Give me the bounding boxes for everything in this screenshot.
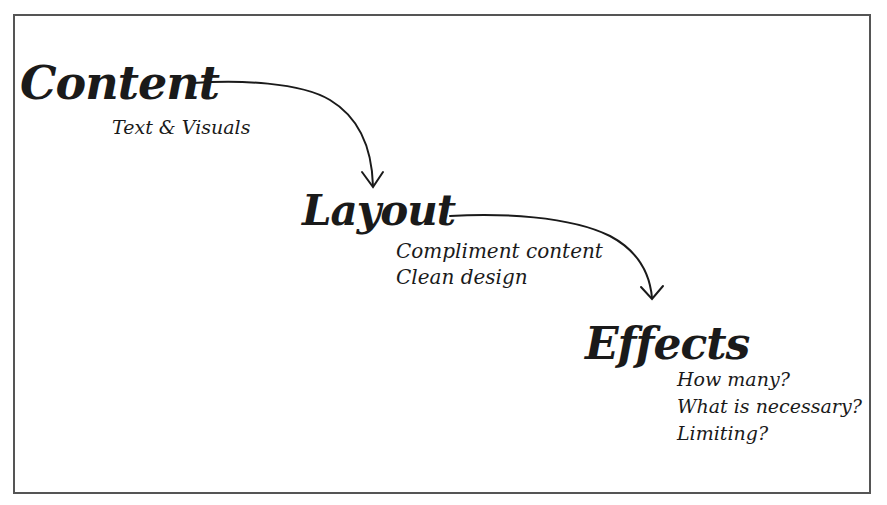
node-note-content: Text & Visuals <box>112 114 250 140</box>
note-line: Compliment content <box>396 238 603 264</box>
node-title-effects: Effects <box>585 318 749 369</box>
note-line: Limiting? <box>677 420 862 447</box>
note-line: Clean design <box>396 264 603 290</box>
note-line: How many? <box>677 366 862 393</box>
node-notes-effects: How many? What is necessary? Limiting? <box>677 366 862 447</box>
node-title-content: Content <box>20 56 219 110</box>
note-line: What is necessary? <box>677 393 862 420</box>
note-line: Text & Visuals <box>112 114 250 140</box>
node-title-layout: Layout <box>302 186 455 235</box>
node-notes-layout: Compliment content Clean design <box>396 238 603 290</box>
